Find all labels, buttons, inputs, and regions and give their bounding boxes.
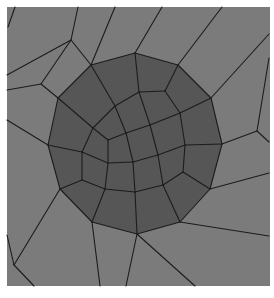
- mesh-diagram: [0, 0, 274, 298]
